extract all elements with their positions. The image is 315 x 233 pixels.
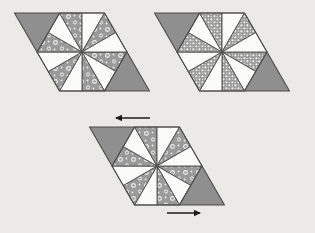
diagram-canvas <box>0 0 315 233</box>
triangle-tiling-diagram <box>0 0 315 233</box>
